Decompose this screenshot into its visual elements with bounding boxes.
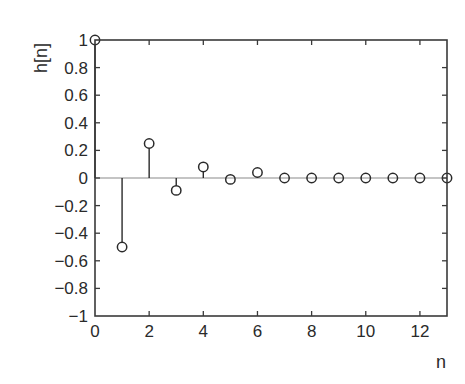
x-tick-label: 10 — [356, 322, 375, 341]
circle-marker-icon — [172, 186, 181, 195]
x-tick-label: 2 — [144, 322, 153, 341]
x-tick-label: 0 — [90, 322, 99, 341]
circle-marker-icon — [226, 175, 235, 184]
stem-point — [199, 162, 208, 178]
stem-series — [90, 35, 451, 251]
y-tick-label: −0.8 — [54, 279, 88, 298]
y-tick-label: −0.4 — [54, 224, 88, 243]
stem-plot: 024681012 10.80.60.40.20−0.2−0.4−0.6−0.8… — [0, 0, 465, 384]
circle-marker-icon — [199, 162, 208, 171]
x-tick-label: 4 — [199, 322, 208, 341]
y-tick-label: −0.6 — [54, 252, 88, 271]
x-axis-label: n — [436, 352, 446, 372]
stem-point — [172, 178, 181, 195]
x-axis-ticks: 024681012 — [90, 40, 429, 341]
y-tick-label: 1 — [79, 31, 88, 50]
y-tick-label: 0.2 — [64, 141, 88, 160]
x-tick-label: 6 — [253, 322, 262, 341]
y-tick-label: 0.6 — [64, 86, 88, 105]
y-tick-label: 0.8 — [64, 59, 88, 78]
stem-point — [117, 178, 126, 252]
circle-marker-icon — [253, 168, 262, 177]
y-tick-label: 0.4 — [64, 114, 88, 133]
stem-point — [144, 139, 153, 178]
stem-point — [226, 175, 235, 184]
circle-marker-icon — [117, 242, 126, 251]
x-tick-label: 12 — [410, 322, 429, 341]
stem-point — [253, 168, 262, 178]
x-tick-label: 8 — [307, 322, 316, 341]
y-tick-label: 0 — [79, 169, 88, 188]
y-axis-label: h[n] — [31, 43, 51, 73]
y-tick-label: −0.2 — [54, 197, 88, 216]
y-tick-label: −1 — [69, 307, 88, 326]
circle-marker-icon — [144, 139, 153, 148]
